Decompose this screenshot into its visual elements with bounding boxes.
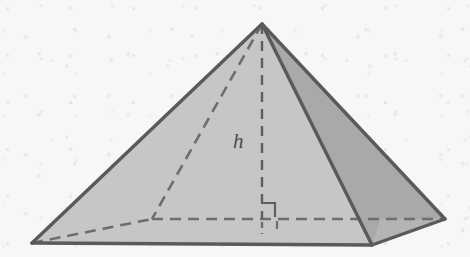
- pyramid-figure: h: [0, 0, 470, 257]
- edge-base-front: [32, 243, 372, 245]
- height-label: h: [233, 131, 244, 152]
